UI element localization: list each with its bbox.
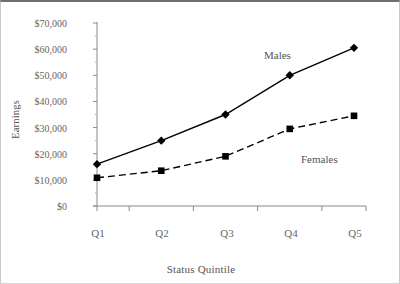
data-series bbox=[93, 44, 358, 181]
axis-ticks bbox=[93, 23, 366, 211]
plot-area bbox=[1, 2, 400, 284]
chart-frame: Earnings $70,000 $60,000 $50,000 $40,000… bbox=[0, 0, 400, 284]
axis-lines bbox=[93, 22, 366, 206]
